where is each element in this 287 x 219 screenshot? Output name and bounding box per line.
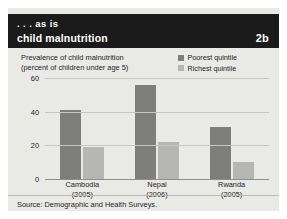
source-note: Source: Demographic and Health Surveys. <box>17 200 157 209</box>
bar-groups <box>45 78 269 179</box>
header-titles: . . . as is child malnutrition <box>17 17 270 45</box>
bar-poorest <box>135 85 156 179</box>
y-axis: 0204060 <box>21 78 43 186</box>
figure-header: . . . as is child malnutrition 2b <box>8 14 279 48</box>
bar-richest <box>233 162 254 179</box>
legend-label-richest: Richest quintile <box>188 64 237 73</box>
chart-subtitle: (percent of children under age 5) <box>21 63 128 73</box>
legend-item-richest: Richest quintile <box>178 64 270 74</box>
chart-card: . . . as is child malnutrition 2b Preval… <box>8 8 279 211</box>
figure-number-badge: 2b <box>256 32 269 44</box>
y-axis-tick-label: 40 <box>31 107 39 116</box>
x-axis-labels: Cambodia(2005)Nepal(2006)Rwanda(2005) <box>45 180 269 199</box>
gridline <box>45 145 269 146</box>
gridline <box>45 112 269 113</box>
x-axis-country: Rwanda <box>218 180 245 189</box>
chart-title: Prevalence of child malnutrition <box>21 53 124 63</box>
legend-label-poorest: Poorest quintile <box>188 53 238 62</box>
plot-wrapper: 0204060 Cambodia(2005)Nepal(2006)Rwanda(… <box>21 78 269 186</box>
header-title: child malnutrition <box>17 31 270 45</box>
x-axis-country: Cambodia <box>65 180 99 189</box>
bar-richest <box>83 147 104 179</box>
bar-poorest <box>210 127 231 179</box>
bar-group <box>60 78 104 179</box>
x-axis-country: Nepal <box>147 180 166 189</box>
header-kicker: . . . as is <box>17 17 270 30</box>
legend-swatch-icon-richest <box>178 65 184 71</box>
bar-richest <box>158 142 179 179</box>
gridline <box>45 78 269 79</box>
legend-item-poorest: Poorest quintile <box>178 53 270 63</box>
bar-group <box>135 78 179 179</box>
x-axis-label: Nepal(2006) <box>124 180 190 199</box>
x-axis-label: Rwanda(2005) <box>199 180 265 199</box>
y-axis-tick-label: 0 <box>35 175 39 184</box>
plot-area <box>45 78 269 180</box>
chart-legend: Poorest quintile Richest quintile <box>178 53 270 74</box>
figure-panel: . . . as is child malnutrition 2b Preval… <box>0 0 287 219</box>
y-axis-tick-label: 60 <box>31 74 39 83</box>
x-axis-label: Cambodia(2005) <box>49 180 115 199</box>
y-axis-tick-label: 20 <box>31 141 39 150</box>
source-divider <box>8 195 279 196</box>
legend-swatch-icon-poorest <box>178 55 184 61</box>
bar-group <box>210 78 254 179</box>
